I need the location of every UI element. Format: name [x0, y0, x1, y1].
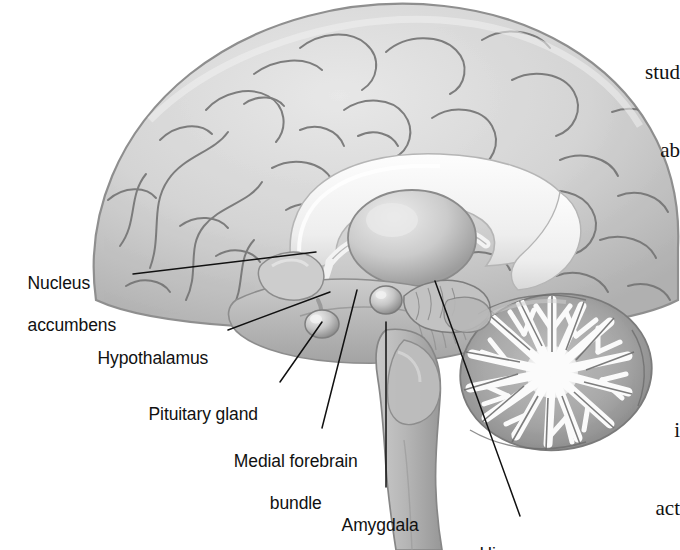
body-text-line-act: act: [560, 494, 680, 522]
label-medial-forebrain-bundle-line2: bundle: [270, 493, 322, 513]
label-nucleus-accumbens: Nucleus accumbens: [18, 252, 116, 336]
amygdala: [370, 286, 402, 314]
label-nucleus-accumbens-line1: Nucleus: [28, 273, 91, 293]
body-text-bottom-block: i act tho sec hig itive: [560, 366, 680, 550]
label-pituitary-gland: Pituitary gland: [139, 383, 258, 425]
body-text-line-i: i: [560, 416, 680, 444]
label-amygdala-line1: Amygdala: [342, 515, 419, 535]
label-pituitary-gland-line1: Pituitary gland: [149, 404, 258, 424]
label-medial-forebrain-bundle-line1: Medial forebrain: [234, 451, 358, 471]
label-amygdala: Amygdala: [333, 494, 419, 536]
body-text-line-stud: stud: [560, 58, 680, 86]
label-hypothalamus: Hypothalamus: [88, 327, 208, 369]
label-hypothalamus-line1: Hypothalamus: [98, 348, 209, 368]
thalamus: [348, 190, 476, 286]
body-text-line-ab: ab: [560, 136, 680, 164]
body-text-top-block: stud ab: [560, 8, 680, 189]
nucleus-accumbens: [258, 252, 324, 300]
